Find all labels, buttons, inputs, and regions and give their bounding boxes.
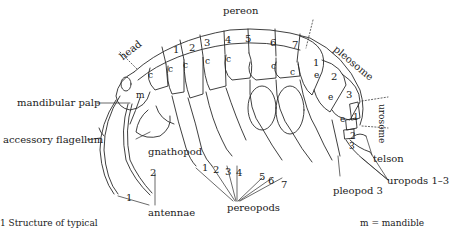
- mandible-marker: m: [136, 90, 145, 100]
- gnathopod-drawing: [130, 98, 174, 137]
- pereopod-number-6: 6: [268, 176, 274, 186]
- epimeron-marker-1: e: [314, 70, 319, 80]
- pleopod-3-label: pleopod 3: [333, 186, 383, 196]
- uropods-label: uropods 1–3: [387, 176, 449, 186]
- antenna-1-drawing: [100, 96, 120, 194]
- accessory-flagellum-label: accessory flagellum: [3, 135, 103, 145]
- pereon-segment-4: 4: [225, 35, 231, 45]
- coxa-marker-7: c: [290, 67, 295, 77]
- pereon-segment-6: 6: [270, 38, 276, 48]
- urosome-segment-1: 1: [353, 112, 359, 122]
- pleosome-segment-1: 1: [313, 58, 319, 68]
- epimeron-marker-3: e: [340, 114, 345, 124]
- urosome-segment-3: 3: [349, 141, 355, 151]
- coxa-marker-4: c: [205, 56, 210, 66]
- pereopod-number-1: 1: [202, 163, 208, 173]
- pereopod-number-2: 2: [213, 165, 219, 175]
- pereopod-number-7: 7: [281, 180, 287, 190]
- mandible-legend: m = mandible: [360, 219, 424, 228]
- pereon-segment-3: 3: [204, 38, 210, 48]
- antennae-label: antennae: [148, 208, 195, 218]
- coxa-marker-6: c: [271, 61, 276, 71]
- pereon-segment-2: 2: [189, 43, 195, 53]
- telson-label: telson: [373, 154, 404, 164]
- pereon-label: pereon: [223, 6, 258, 16]
- gnathopod-label: gnathopod: [148, 147, 202, 157]
- pereopod-number-4: 4: [236, 168, 242, 178]
- pereon-segment-5: 5: [245, 34, 251, 44]
- pleosome-segment-2: 2: [331, 72, 337, 82]
- pleosome-segment-3: 3: [346, 90, 352, 100]
- coxa-marker-3: c: [183, 60, 188, 70]
- region-dividers: [120, 20, 388, 128]
- pereopod-number-3: 3: [225, 167, 231, 177]
- mandibular-palp-label: mandibular palp: [17, 98, 100, 108]
- pereon-segment-7: 7: [292, 40, 298, 50]
- urosome-segment-2: 2: [350, 131, 356, 141]
- urosome-label: urosome: [377, 104, 387, 143]
- epimeron-marker-2: e: [328, 92, 333, 102]
- coxa-marker-5: c: [226, 54, 231, 64]
- pereopod-number-5: 5: [259, 172, 265, 182]
- pereopods-label: pereopods: [227, 203, 280, 213]
- coxa-marker-1: c: [148, 70, 153, 80]
- antenna-2-number: 2: [150, 168, 156, 178]
- antenna-1-number: 1: [126, 193, 132, 203]
- coxa-marker-2: c: [168, 64, 173, 74]
- pereon-segment-1: 1: [173, 45, 179, 55]
- figure-caption: 1 Structure of typical: [0, 219, 98, 228]
